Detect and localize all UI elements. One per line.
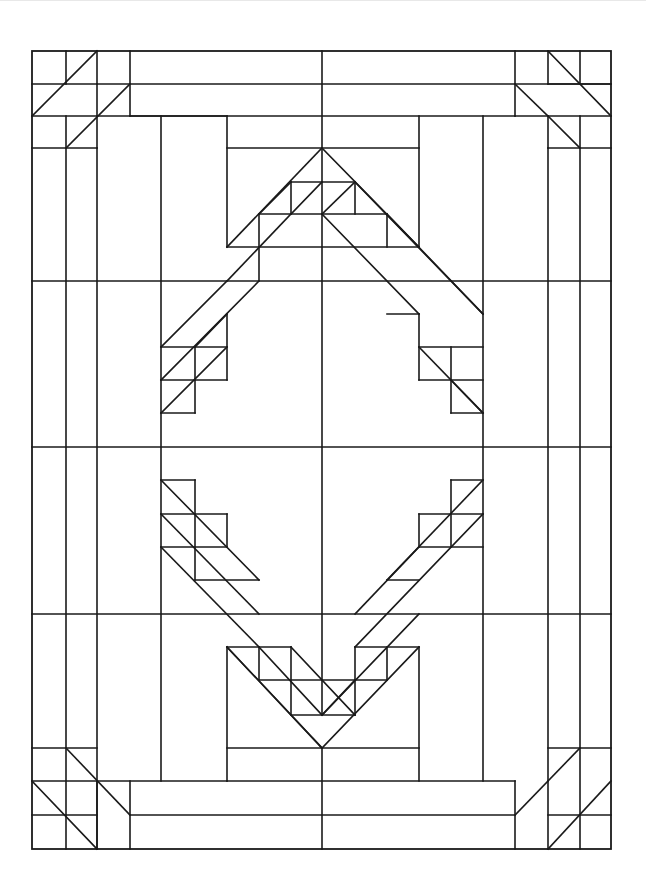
pattern-line — [291, 182, 322, 214]
pattern-line — [322, 647, 419, 748]
pattern-line — [161, 547, 259, 647]
pattern-line — [195, 314, 227, 347]
pattern-line — [515, 84, 548, 116]
pattern-line — [291, 647, 355, 715]
pattern-line — [322, 214, 419, 314]
pattern-line — [227, 647, 322, 748]
pattern-line — [548, 116, 580, 148]
pattern-line — [387, 214, 483, 314]
pattern-line — [259, 182, 291, 214]
quilt-pattern-lines — [32, 51, 611, 849]
quilt-pattern-diagram — [0, 0, 646, 894]
pattern-line — [322, 182, 355, 214]
pattern-line — [161, 281, 227, 347]
